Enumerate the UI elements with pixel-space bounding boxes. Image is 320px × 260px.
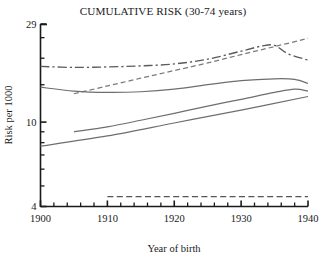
- x-tick-label: 1940: [298, 213, 319, 224]
- cumulative-risk-line-chart: CUMULATIVE RISK (30-74 years) 41029 1900…: [0, 0, 320, 260]
- y-tick-label: 4: [31, 201, 37, 212]
- y-tick-label: 10: [26, 117, 37, 128]
- x-axis-label: Year of birth: [147, 243, 201, 254]
- x-tick-label: 1910: [97, 213, 118, 224]
- x-tick-label: 1900: [30, 213, 51, 224]
- y-tick-label: 29: [26, 19, 37, 30]
- x-tick-label: 1920: [164, 213, 185, 224]
- chart-figure: CUMULATIVE RISK (30-74 years) 41029 1900…: [0, 0, 320, 260]
- chart-title: CUMULATIVE RISK (30-74 years): [80, 5, 247, 18]
- x-tick-label: 1930: [231, 213, 252, 224]
- y-axis-label: Risk per 1000: [3, 86, 14, 145]
